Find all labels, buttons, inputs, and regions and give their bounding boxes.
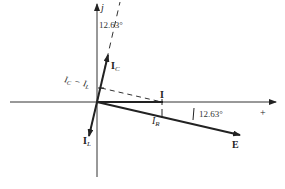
ic-minus-il-dashed-line [101,88,162,102]
real-positive-label: + [260,107,266,118]
imaginary-axis-label: j [99,2,104,13]
phasor-ic [97,55,108,102]
phasor-diagram: j + 12.63° 12.63° IC IL I IR E IC−IL [0,0,285,189]
i-label: I [160,89,164,100]
ic-label: IC [111,60,120,73]
il-label: IL [83,135,91,148]
e-label: E [232,139,239,150]
lower-angle-label: 12.63° [199,109,223,119]
angle-marker [193,108,194,120]
phasor-il [89,102,97,136]
ic-minus-il-label: IC−IL [62,74,91,90]
upper-angle-label: 12.63° [99,20,123,30]
